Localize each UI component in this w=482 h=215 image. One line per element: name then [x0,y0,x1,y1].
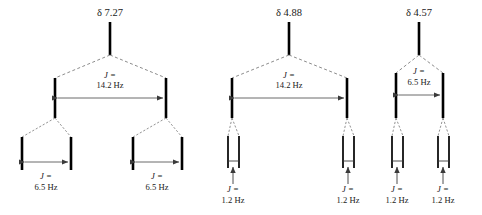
shift-label-tree-1: δ 7.27 [97,7,123,18]
coupling-label-line2-1-2-left-tree-2: 1.2 Hz [222,195,245,205]
coupling-label-line1-tree-2: J = [283,70,295,80]
coupling-label-line1-1-2-right-tree-3: J = [437,184,449,194]
branch-right-tree-2 [289,55,347,78]
subbranch-rl-tree-1 [133,118,166,137]
coupling-label-line2-1-2-left-tree-3: 1.2 Hz [386,195,409,205]
coupling-label-line2-1-2-right-tree-2: 1.2 Hz [337,195,360,205]
coupling-label-line2-tree-3: 6.5 Hz [408,77,431,87]
subbranch-rl-tree-2 [343,118,347,136]
subbranch-lr-tree-1 [55,118,71,137]
splitting-tree-canvas: δ 7.27 J = 14.2 Hz J = 6.5 Hz J = 6.5 Hz [0,0,482,215]
branch-left-tree-1 [55,55,110,78]
shift-label-tree-3: δ 4.57 [406,7,432,18]
subbranch-rr-tree-1 [166,118,182,137]
subbranch-rl-tree-3 [438,118,443,136]
subbranch-lr-tree-3 [396,118,403,136]
subbranch-ll-tree-3 [392,118,396,136]
coupling-label-line1-1-2-left-tree-2: J = [227,184,239,194]
shift-label-tree-2: δ 4.88 [276,7,302,18]
coupling-label-line1-tree-3: J = [413,66,425,76]
coupling-label-line2-6-5-right-tree-1: 6.5 Hz [146,182,169,192]
nmr-splitting-diagram: δ 7.27 J = 14.2 Hz J = 6.5 Hz J = 6.5 Hz [0,0,482,215]
subbranch-rr-tree-2 [347,118,354,136]
subbranch-ll-tree-2 [228,118,232,136]
coupling-label-line2-tree-1: 14.2 Hz [96,80,123,90]
coupling-label-line2-6-5-left-tree-1: 6.5 Hz [35,182,58,192]
coupling-label-line2-tree-2: 14.2 Hz [275,80,302,90]
coupling-label-line1-6-5-right-tree-1: J = [151,171,163,181]
coupling-label-line1-1-2-left-tree-3: J = [391,184,403,194]
branch-left-tree-2 [232,55,289,78]
coupling-label-line1-1-2-right-tree-2: J = [342,184,354,194]
subbranch-lr-tree-2 [232,118,239,136]
tree-2-group: δ 4.88 J = 14.2 Hz J = 1.2 Hz J = [222,7,360,205]
coupling-label-line1-tree-1: J = [104,70,116,80]
tree-1-group: δ 7.27 J = 14.2 Hz J = 6.5 Hz J = 6.5 Hz [22,7,182,192]
subbranch-rr-tree-3 [443,118,449,136]
coupling-label-line1-6-5-left-tree-1: J = [40,171,52,181]
subbranch-ll-tree-1 [22,118,55,137]
tree-3-group: δ 4.57 J = 6.5 Hz J = 1.2 Hz J = [386,7,455,205]
coupling-label-line2-1-2-right-tree-3: 1.2 Hz [432,195,455,205]
branch-right-tree-1 [110,55,166,78]
